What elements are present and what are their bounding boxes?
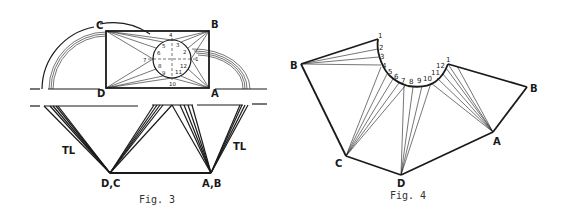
true-length-fan-left <box>44 106 110 173</box>
true-length-arc <box>51 34 106 89</box>
true-length-arc <box>100 23 150 34</box>
development-outline <box>301 39 527 175</box>
fan-from-d <box>401 83 431 175</box>
fig3-caption: Fig. 3 <box>139 194 175 205</box>
circle-point-7: 7 <box>143 57 147 63</box>
label-dc: D,C <box>101 178 120 189</box>
label-tl-right: TL <box>233 141 247 152</box>
fig3-diagram: 1 2 3 4 5 6 7 8 9 10 11 12 C B D A <box>30 19 267 205</box>
fig4-development: 1 2 3 4 5 6 7 8 9 10 11 12 1 B B C D A F… <box>290 32 538 201</box>
plan-rectangle <box>106 31 209 88</box>
circle-point-3: 3 <box>176 42 180 48</box>
label-tl-left: TL <box>62 145 76 156</box>
circle-point-6: 6 <box>157 50 161 56</box>
arc-point-5: 5 <box>388 68 392 76</box>
arc-point-7: 7 <box>401 77 405 85</box>
arc-point-11: 11 <box>431 69 440 77</box>
label-C: C <box>335 158 342 169</box>
circle-point-10: 10 <box>169 81 176 87</box>
arc-point-12: 12 <box>436 62 445 70</box>
label-D: D <box>397 178 405 189</box>
triangulation-lines <box>106 31 209 88</box>
circle-point-2: 2 <box>183 49 187 55</box>
circle-point-11: 11 <box>175 69 182 75</box>
circle-point-1: 1 <box>195 56 199 62</box>
label-A: A <box>493 136 501 147</box>
label-B-right: B <box>530 83 538 94</box>
label-A: A <box>211 88 219 99</box>
arc-point-2: 2 <box>379 44 383 52</box>
circle-point-5: 5 <box>162 43 166 49</box>
label-D: D <box>97 88 105 99</box>
arc-point-9: 9 <box>417 77 421 85</box>
label-B: B <box>211 19 219 30</box>
arc-point-8: 8 <box>409 78 413 86</box>
circle-point-12: 12 <box>180 63 187 69</box>
label-ab: A,B <box>202 178 221 189</box>
circle-point-4: 4 <box>169 32 173 38</box>
diagram-canvas: 1 2 3 4 5 6 7 8 9 10 11 12 C B D A <box>0 0 562 214</box>
arc-point-6: 6 <box>394 73 399 81</box>
circle-point-9: 9 <box>162 70 166 76</box>
label-B-left: B <box>290 60 298 71</box>
true-length-arc <box>49 32 106 89</box>
arc-point-3: 3 <box>380 53 384 61</box>
true-length-arc <box>194 51 247 89</box>
label-C: C <box>96 20 103 31</box>
true-length-fan-right <box>211 105 248 173</box>
arc-point-4: 4 <box>382 62 387 70</box>
circle-point-8: 8 <box>158 63 162 69</box>
fig4-caption: Fig. 4 <box>390 190 426 201</box>
arc-point-1: 1 <box>378 32 382 40</box>
true-length-fan-middle <box>110 105 211 173</box>
true-length-arc <box>196 53 245 89</box>
arc-point-1b: 1 <box>446 56 450 64</box>
